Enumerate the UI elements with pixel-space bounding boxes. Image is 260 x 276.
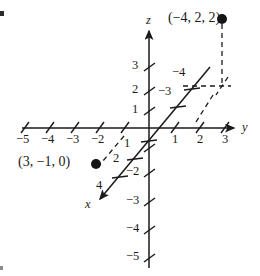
guide-lines-point-a [183, 24, 231, 122]
y-tick-label-3: 3 [222, 133, 228, 146]
coordinate-system-figure: y z x −5 −4 −3 −2 1 2 3 3 2 1 −2 −3 −4 −… [0, 0, 260, 276]
z-axis-label: z [146, 14, 151, 27]
z-tick-label-3: 3 [132, 59, 138, 72]
z-tick-label-neg2: −2 [126, 165, 139, 178]
x-tick-label-2: 2 [113, 152, 119, 165]
scan-artifact-bottom-left [0, 266, 3, 270]
y-tick-label-neg2: −2 [91, 133, 104, 146]
y-tick-label-neg3: −3 [66, 133, 79, 146]
z-tick-label-1: 1 [132, 103, 138, 116]
x-axis [100, 67, 210, 199]
z-axis [144, 31, 155, 268]
z-tick-label-2: 2 [132, 83, 138, 96]
x-tick-label-1: 1 [124, 137, 130, 150]
z-tick-label-neg4: −4 [126, 222, 139, 235]
data-point-b[interactable] [91, 159, 101, 169]
y-tick-label-neg4: −4 [41, 133, 54, 146]
x-tick-label-4: 4 [96, 179, 102, 192]
y-tick-label-neg5: −5 [16, 133, 29, 146]
y-axis-label: y [242, 121, 248, 134]
x-tick-label-neg4: −4 [172, 66, 185, 79]
point-label-a: (−4, 2, 2) [168, 11, 220, 25]
diagonal-guide-a [196, 95, 213, 122]
y-tick-label-2: 2 [197, 133, 203, 146]
y-tick-label-1: 1 [172, 133, 178, 146]
x-tick-label-neg3: −3 [158, 85, 171, 98]
z-tick-label-neg5: −5 [126, 250, 139, 263]
point-label-b: (3, −1, 0) [18, 155, 70, 169]
x-axis-label: x [85, 198, 91, 211]
z-tick-label-neg3: −3 [126, 194, 139, 207]
scan-artifact-top-left [0, 11, 4, 16]
